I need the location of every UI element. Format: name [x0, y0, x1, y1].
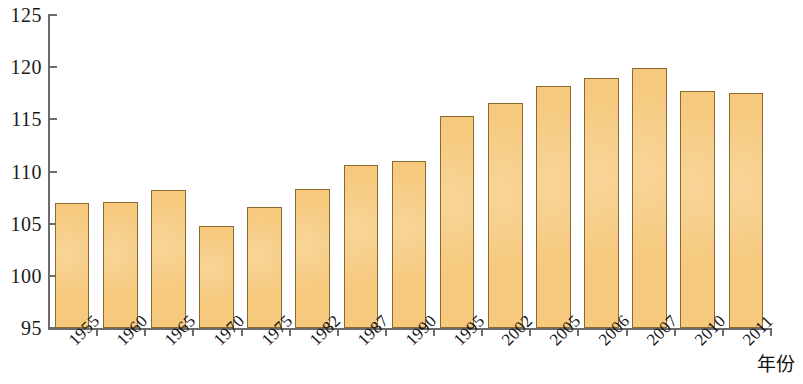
y-axis-tick-label: 110: [0, 162, 42, 182]
chart-container: 95100105110115120125 1955196019651970197…: [0, 0, 803, 384]
y-axis-tick: [48, 66, 57, 68]
y-axis-tick-label: 120: [0, 57, 42, 77]
bar: [584, 78, 619, 328]
y-axis-tick-label: 105: [0, 214, 42, 234]
y-axis-tick: [48, 171, 57, 173]
y-axis-tick: [48, 14, 57, 16]
bar: [55, 203, 90, 328]
y-axis-tick: [48, 118, 57, 120]
y-axis-tick-label: 115: [0, 109, 42, 129]
y-axis-tick-label: 125: [0, 5, 42, 25]
x-axis-title: 年份: [757, 349, 795, 376]
y-axis-tick-label: 100: [0, 266, 42, 286]
bar: [729, 93, 764, 328]
bar: [680, 91, 715, 328]
bar: [632, 68, 667, 328]
y-axis-tick-label: 95: [0, 318, 42, 338]
bar: [536, 86, 571, 328]
